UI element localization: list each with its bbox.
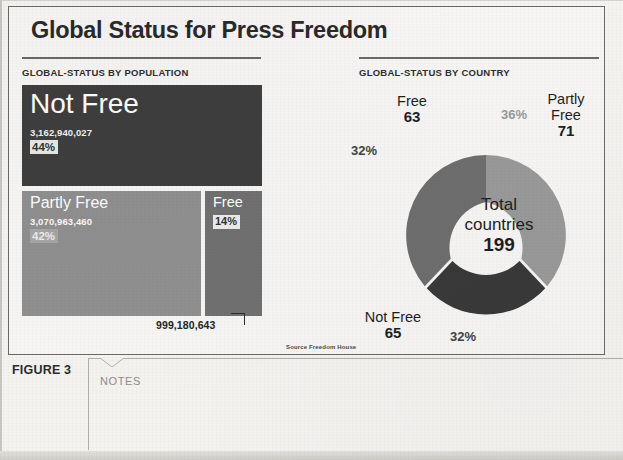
donut-label-partly-free-name-line2: Free	[535, 107, 597, 123]
treemap-block-percent: 14%	[213, 215, 240, 229]
treemap-block-percent: 42%	[30, 229, 58, 243]
treemap-block-label: Free	[213, 195, 243, 210]
donut-label-not-free-count: 65	[362, 325, 424, 342]
treemap-block-not-free[interactable]: Not Free 3,162,940,027 44%	[22, 85, 262, 186]
source-credit: Source Freedom House	[286, 344, 356, 350]
notes-box[interactable]	[88, 358, 623, 450]
treemap-block-percent: 44%	[30, 140, 58, 154]
figure-panel: Global Status for Press Freedom GLOBAL-S…	[8, 6, 605, 355]
treemap-callout-leader-line	[231, 313, 245, 325]
population-section-header: GLOBAL-STATUS BY POPULATION	[22, 67, 189, 78]
donut-percent-free: 32%	[351, 143, 377, 158]
country-section-header: GLOBAL-STATUS BY COUNTRY	[359, 67, 510, 78]
treemap-block-partly-free[interactable]: Partly Free 3,070,963,460 42%	[22, 191, 201, 316]
donut-percent-partly-free: 36%	[501, 107, 527, 122]
notes-tab-notch-icon	[100, 358, 124, 367]
donut-label-not-free: Not Free 65	[362, 309, 424, 342]
donut-label-free-count: 63	[386, 109, 438, 126]
donut-center-line1: Total	[439, 195, 559, 215]
figure-title: Global Status for Press Freedom	[31, 17, 387, 44]
notes-label: NOTES	[100, 375, 141, 387]
donut-label-free-name: Free	[386, 93, 438, 109]
figure-number-label: FIGURE 3	[12, 363, 71, 377]
treemap-block-value: 3,162,940,027	[30, 127, 92, 138]
donut-label-partly-free: Partly Free 71	[535, 91, 597, 140]
donut-label-free: Free 63	[386, 93, 438, 126]
scanned-page: Global Status for Press Freedom GLOBAL-S…	[0, 0, 623, 460]
page-bottom-edge	[0, 451, 623, 460]
donut-center-total: Total countries 199	[439, 195, 559, 256]
donut-center-value: 199	[439, 234, 559, 256]
population-header-rule	[22, 57, 261, 59]
treemap-free-callout-value: 999,180,643	[156, 319, 216, 331]
country-header-rule	[359, 57, 599, 59]
donut-center-line2: countries	[439, 215, 559, 235]
country-donut-chart: Free 63 32% Partly Free 71 36% Not Free …	[349, 85, 604, 355]
donut-label-not-free-name: Not Free	[362, 309, 424, 325]
treemap-block-free[interactable]: Free 14%	[205, 191, 262, 316]
treemap-block-label: Partly Free	[30, 195, 108, 211]
donut-label-partly-free-count: 71	[535, 123, 597, 140]
donut-segment-not-free[interactable]	[427, 261, 546, 315]
population-treemap: Not Free 3,162,940,027 44% Partly Free 3…	[22, 85, 262, 316]
treemap-block-label: Not Free	[30, 90, 139, 118]
donut-percent-not-free: 32%	[450, 329, 476, 344]
treemap-block-value: 3,070,963,460	[30, 216, 92, 227]
donut-label-partly-free-name-line1: Partly	[535, 91, 597, 107]
